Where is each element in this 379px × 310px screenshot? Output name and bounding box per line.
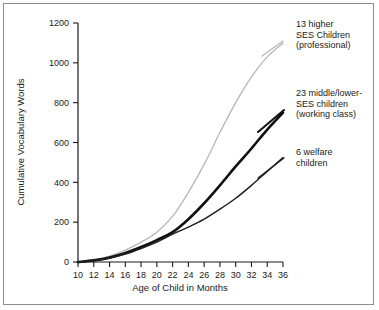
y-axis-title: Cumulative Vocabulary Words	[15, 78, 26, 205]
x-tick-label: 34	[262, 270, 272, 280]
vocabulary-growth-chart: 020040060080010001200 Cumulative Vocabul…	[0, 0, 379, 310]
x-tick-label: 18	[136, 270, 146, 280]
x-tick-label: 14	[105, 270, 115, 280]
series-line	[78, 113, 283, 262]
annotation-line: 23 middle/lower-	[296, 88, 362, 98]
x-axis-title: Age of Child in Months	[132, 282, 228, 293]
y-tick-label: 600	[54, 138, 69, 148]
x-tick-label: 24	[183, 270, 193, 280]
annotation-line: (professional)	[296, 40, 351, 50]
annotation-line: children	[296, 158, 328, 168]
chart-page: 020040060080010001200 Cumulative Vocabul…	[0, 0, 379, 310]
annotation-leader	[258, 158, 284, 178]
series-line	[78, 157, 283, 262]
x-axis: 1012141618202224262830323436 Age of Chil…	[73, 262, 288, 293]
annotation-line: (working class)	[296, 109, 356, 119]
annotation-line: 13 higher	[296, 19, 334, 29]
x-tick-label: 20	[152, 270, 162, 280]
y-axis: 020040060080010001200 Cumulative Vocabul…	[15, 18, 78, 267]
x-tick-label: 10	[73, 270, 83, 280]
x-tick-label: 36	[278, 270, 288, 280]
x-tick-label: 32	[246, 270, 256, 280]
x-axis-ticks	[78, 262, 283, 267]
annotation-leader	[258, 110, 284, 132]
y-tick-label: 800	[54, 98, 69, 108]
x-tick-label: 28	[215, 270, 225, 280]
x-tick-label: 30	[231, 270, 241, 280]
y-tick-label: 1200	[49, 18, 69, 28]
y-tick-label: 400	[54, 178, 69, 188]
series-lines	[78, 43, 283, 262]
x-tick-label: 26	[199, 270, 209, 280]
annotation-leader-lines	[258, 41, 284, 178]
x-tick-label: 12	[89, 270, 99, 280]
x-tick-label: 22	[168, 270, 178, 280]
annotation-line: SES children	[296, 99, 348, 109]
y-tick-label: 0	[64, 257, 69, 267]
annotation-line: SES Children	[296, 30, 350, 40]
y-tick-label: 1000	[49, 58, 69, 68]
annotation-leader	[262, 41, 283, 56]
y-tick-label: 200	[54, 217, 69, 227]
x-tick-label: 16	[120, 270, 130, 280]
annotation-line: 6 welfare	[296, 147, 333, 157]
series-annotations: 13 higherSES Children(professional)23 mi…	[296, 19, 362, 168]
y-axis-tick-labels: 020040060080010001200	[49, 18, 69, 267]
x-axis-tick-labels: 1012141618202224262830323436	[73, 270, 288, 280]
series-line	[78, 43, 283, 262]
y-axis-ticks	[73, 23, 78, 262]
